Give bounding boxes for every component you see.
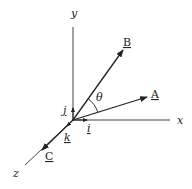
unit-j-label: j — [60, 104, 67, 117]
angle-theta-label: θ — [96, 91, 103, 104]
vector-diagram: y x z B A C θ j i k — [0, 0, 192, 189]
vector-B — [73, 50, 123, 120]
vector-A-label: A — [150, 88, 160, 101]
vector-B-label: B — [123, 36, 131, 49]
vector-C-label: C — [45, 150, 53, 163]
y-axis-label: y — [70, 7, 78, 20]
unit-i-label: i — [87, 122, 91, 135]
x-axis-label: x — [177, 114, 184, 127]
z-axis-label: z — [12, 167, 19, 180]
vector-A — [73, 97, 147, 120]
unit-k-label: k — [64, 131, 71, 144]
